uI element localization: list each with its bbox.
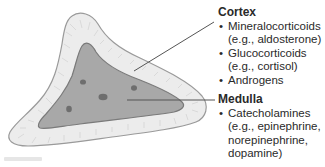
nucleus-dot — [131, 85, 137, 91]
cortex-leader-line — [134, 22, 214, 71]
bullet-catecholamines: Catecholamines — [218, 107, 321, 121]
bullet-mineralocorticoids: Mineralocorticoids — [218, 20, 321, 34]
medulla-title: Medulla — [218, 93, 321, 107]
nucleus-dot — [99, 94, 108, 100]
cortex-label-block: Cortex Mineralocorticoids (e.g., aldoste… — [218, 6, 321, 87]
nucleus-dot — [66, 106, 72, 112]
example-aldosterone: (e.g., aldosterone) — [218, 33, 321, 47]
bullet-androgens: Androgens — [218, 74, 321, 88]
bullet-glucocorticoids: Glucocorticoids — [218, 47, 321, 61]
example-dopamine: dopamine) — [218, 147, 321, 161]
example-epinephrine: (e.g., epinephrine, — [218, 120, 321, 134]
cortex-title: Cortex — [218, 6, 321, 20]
medulla-label-block: Medulla Catecholamines (e.g., epinephrin… — [218, 93, 321, 161]
nucleus-dot — [80, 79, 86, 84]
example-cortisol: (e.g., cortisol) — [218, 60, 321, 74]
example-norepinephrine: norepinephrine, — [218, 134, 321, 148]
figure-id-mark — [4, 157, 42, 161]
